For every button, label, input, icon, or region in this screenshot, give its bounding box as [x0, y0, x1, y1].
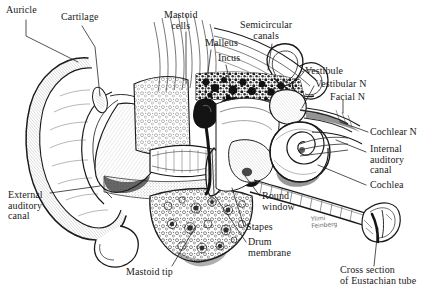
label-round-window: Round window [262, 191, 295, 212]
ear-anatomy-figure: AuricleCartilageMastoid cellsMalleusIncu… [0, 0, 425, 293]
label-internal-auditory-canal: Internal auditory canal [370, 144, 404, 176]
label-incus: Incus [218, 53, 240, 64]
leader-internal-canal [336, 140, 366, 152]
label-cochlea: Cochlea [370, 180, 403, 191]
label-facial-nerve: Facial N [330, 92, 365, 103]
leader-auricle [26, 20, 78, 62]
eustachian-tube-cross-section [362, 203, 400, 242]
round-window-niche [242, 168, 252, 176]
label-cross-section-eustachian-tube: Cross section of Eustachian tube [340, 265, 416, 286]
label-vestibular-nerve: Vestibular N [315, 79, 366, 90]
mastoid-process [146, 184, 260, 266]
label-drum-membrane: Drum membrane [248, 237, 291, 258]
leader-cochlea [318, 165, 366, 185]
vestibule [270, 90, 307, 125]
artist-signature: Ylimi Feinberg [311, 214, 338, 229]
leader-cochlear-nerve [340, 122, 368, 132]
label-semicircular-canals: Semicircular canals [240, 20, 292, 41]
label-vestibule: Vestibule [305, 66, 343, 77]
label-external-auditory-canal: External auditory canal [8, 190, 43, 222]
label-malleus: Malleus [205, 38, 238, 49]
middle-ear-cavity [216, 98, 279, 191]
label-stapes: Stapes [246, 222, 273, 233]
label-mastoid-cells: Mastoid cells [164, 10, 197, 31]
label-cochlear-nerve: Cochlear N [370, 127, 417, 138]
label-auricle: Auricle [6, 5, 37, 16]
label-mastoid-tip: Mastoid tip [126, 267, 173, 278]
label-cartilage: Cartilage [61, 12, 99, 23]
